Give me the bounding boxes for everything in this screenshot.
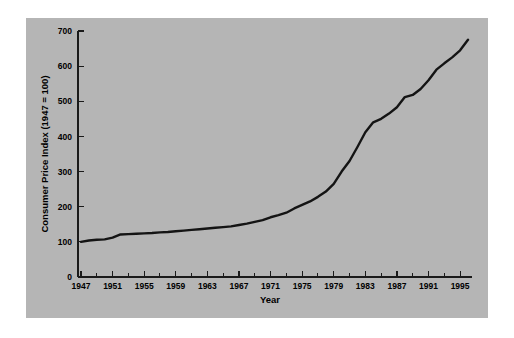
data-series-line [81,40,468,242]
y-tick-label: 700 [58,26,72,36]
chart-figure: 0100200300400500600700 19471951195519591… [0,0,514,338]
y-axis-tick-labels: 0100200300400500600700 [58,26,72,282]
y-tick-label: 100 [58,237,72,247]
y-tick-label: 400 [58,132,72,142]
y-tick-label: 200 [58,202,72,212]
y-axis-title: Consumer Price Index (1947 = 100) [39,75,50,232]
chart-axes [78,31,472,277]
x-tick-label: 1991 [419,281,438,291]
x-tick-label: 1971 [261,281,280,291]
x-tick-label: 1987 [387,281,406,291]
x-tick-label: 1995 [451,281,470,291]
x-axis-ticks [81,271,460,277]
x-axis-tick-labels: 1947195119551959196319671971197519791983… [72,281,470,291]
x-tick-label: 1983 [356,281,375,291]
x-tick-label: 1947 [72,281,91,291]
x-tick-label: 1979 [324,281,343,291]
x-tick-label: 1955 [135,281,154,291]
x-tick-label: 1951 [103,281,122,291]
x-tick-label: 1975 [293,281,312,291]
x-axis-title: Year [260,294,280,305]
y-tick-label: 300 [58,167,72,177]
chart-canvas: 0100200300400500600700 19471951195519591… [0,0,514,338]
y-tick-label: 500 [58,96,72,106]
y-tick-label: 600 [58,61,72,71]
x-tick-label: 1959 [166,281,185,291]
y-axis-ticks [78,31,84,277]
x-tick-label: 1967 [229,281,248,291]
x-tick-label: 1963 [198,281,217,291]
